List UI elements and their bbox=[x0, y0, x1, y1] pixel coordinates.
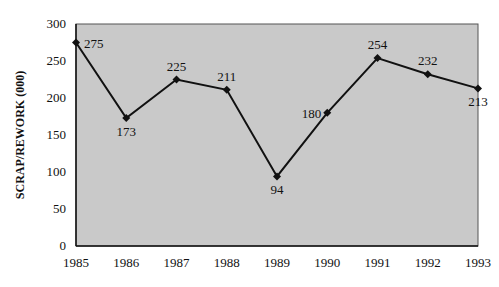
y-tick-label: 150 bbox=[47, 127, 67, 142]
y-tick-label: 50 bbox=[53, 201, 66, 216]
data-label: 173 bbox=[117, 124, 137, 139]
x-tick-label: 1993 bbox=[465, 255, 491, 270]
line-chart: 050100150200250300 198519861987198819891… bbox=[0, 0, 499, 287]
y-tick-label: 300 bbox=[47, 16, 67, 31]
data-label: 275 bbox=[84, 36, 104, 51]
data-label: 211 bbox=[217, 69, 236, 84]
data-label: 254 bbox=[368, 37, 388, 52]
x-tick-labels: 198519861987198819891990199119921993 bbox=[63, 255, 491, 270]
y-tick-label: 250 bbox=[47, 53, 67, 68]
data-label: 232 bbox=[418, 53, 438, 68]
x-tick-label: 1988 bbox=[214, 255, 240, 270]
x-tick-label: 1986 bbox=[113, 255, 140, 270]
y-tick-labels: 050100150200250300 bbox=[47, 16, 67, 253]
x-tick-label: 1989 bbox=[264, 255, 290, 270]
data-label: 213 bbox=[468, 94, 488, 109]
x-tick-label: 1987 bbox=[164, 255, 191, 270]
data-label: 180 bbox=[302, 106, 322, 121]
data-label: 94 bbox=[271, 182, 285, 197]
y-tick-label: 0 bbox=[60, 238, 67, 253]
x-tick-label: 1992 bbox=[415, 255, 441, 270]
y-tick-label: 200 bbox=[47, 90, 67, 105]
y-tick-label: 100 bbox=[47, 164, 67, 179]
data-label: 225 bbox=[167, 59, 187, 74]
y-axis-label: SCRAP/REWORK (000) bbox=[13, 71, 27, 199]
x-tick-label: 1985 bbox=[63, 255, 89, 270]
x-tick-label: 1991 bbox=[365, 255, 391, 270]
x-tick-label: 1990 bbox=[314, 255, 340, 270]
